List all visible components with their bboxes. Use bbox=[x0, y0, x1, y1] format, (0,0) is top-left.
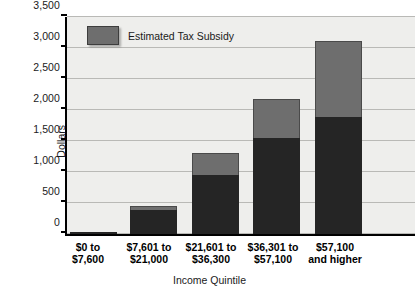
bar-segment-subsidy bbox=[315, 41, 362, 118]
gridline bbox=[67, 171, 415, 172]
y-tick-label-1500: 1,500 bbox=[33, 123, 60, 135]
gridline bbox=[67, 78, 415, 79]
bar-segment-base bbox=[253, 138, 300, 234]
y-tick-label-0: 0 bbox=[54, 216, 60, 228]
y-tick-mark bbox=[61, 45, 67, 47]
y-tick-label-500: 500 bbox=[42, 185, 60, 197]
gridline bbox=[67, 47, 415, 48]
chart-container: Dollars 0 500 1,000 1,500 2,000 2,500 3,… bbox=[0, 0, 419, 293]
chart-legend: Estimated Tax Subsidy bbox=[87, 26, 234, 45]
bar-group[interactable] bbox=[253, 99, 300, 234]
bar-segment-base bbox=[315, 117, 362, 234]
bar-segment-base bbox=[70, 232, 117, 234]
bar-segment-base bbox=[130, 210, 177, 234]
plot-area: Dollars 0 500 1,000 1,500 2,000 2,500 3,… bbox=[65, 17, 415, 236]
bar-group[interactable] bbox=[192, 153, 239, 234]
y-tick-mark bbox=[61, 76, 67, 78]
y-tick-mark bbox=[61, 200, 67, 202]
y-tick-label-2500: 2,500 bbox=[33, 61, 60, 73]
gridline bbox=[67, 109, 415, 110]
y-tick-label-2000: 2,000 bbox=[33, 92, 60, 104]
x-tick-line-2: and higher bbox=[293, 253, 377, 265]
x-axis-title: Income Quintile bbox=[0, 274, 419, 286]
gridline bbox=[67, 140, 415, 141]
bar-group[interactable] bbox=[70, 232, 117, 234]
legend-swatch-estimated-tax-subsidy bbox=[87, 26, 119, 45]
gridline bbox=[67, 202, 415, 203]
legend-label-estimated-tax-subsidy: Estimated Tax Subsidy bbox=[128, 30, 234, 42]
bar-group[interactable] bbox=[315, 41, 362, 234]
y-tick-label-3000: 3,000 bbox=[33, 30, 60, 42]
y-tick-label-1000: 1,000 bbox=[33, 154, 60, 166]
y-tick-mark bbox=[61, 169, 67, 171]
y-tick-label-3500: 3,500 bbox=[33, 0, 60, 11]
x-tick-line-1: $57,100 bbox=[293, 241, 377, 253]
gridline bbox=[67, 16, 415, 17]
bar-segment-base bbox=[192, 175, 239, 234]
y-tick-mark bbox=[61, 107, 67, 109]
bar-segment-subsidy bbox=[253, 99, 300, 138]
gridline bbox=[67, 233, 415, 234]
x-tick-label-4: $57,100 and higher bbox=[293, 241, 377, 265]
bar-group[interactable] bbox=[130, 206, 177, 234]
y-tick-mark bbox=[61, 231, 67, 233]
y-tick-mark bbox=[61, 14, 67, 16]
y-tick-mark bbox=[61, 138, 67, 140]
bar-segment-subsidy bbox=[192, 153, 239, 175]
